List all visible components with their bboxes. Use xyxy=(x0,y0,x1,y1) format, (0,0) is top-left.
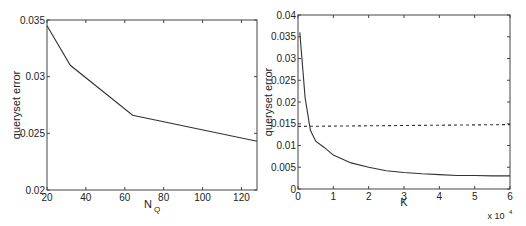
x-tick-label: 60 xyxy=(119,192,131,203)
figure: 204060801001200.020.0250.030.035queryset… xyxy=(0,0,526,226)
x-axis-label-subscript: Q xyxy=(154,205,160,214)
y-tick-label: 0 xyxy=(290,184,296,195)
x-tick-label: 120 xyxy=(233,192,250,203)
y-tick-label: 0.02 xyxy=(277,97,297,108)
y-axis-label: queryset error xyxy=(10,70,22,139)
y-tick-label: 0.01 xyxy=(277,140,297,151)
x-multiplier-exponent: 4 xyxy=(509,209,513,215)
y-tick-label: 0.025 xyxy=(271,75,296,86)
x-tick-label: 4 xyxy=(437,191,443,202)
x-tick-label: 1 xyxy=(331,191,337,202)
y-tick-label: 0.005 xyxy=(271,162,296,173)
x-tick-label: 6 xyxy=(507,191,513,202)
y-tick-label: 0.025 xyxy=(20,128,45,139)
left-chart: 204060801001200.020.0250.030.035queryset… xyxy=(10,15,257,215)
y-tick-label: 0.015 xyxy=(271,118,296,129)
y-tick-label: 0.04 xyxy=(277,10,297,21)
y-tick-label: 0.03 xyxy=(277,53,297,64)
x-tick-label: 5 xyxy=(472,191,478,202)
x-tick-label: 100 xyxy=(194,192,211,203)
dashed-reference-line xyxy=(298,125,510,127)
y-tick-label: 0.035 xyxy=(20,15,45,26)
y-tick-label: 0.035 xyxy=(271,31,296,42)
x-tick-label: 0 xyxy=(295,191,301,202)
x-tick-label: 2 xyxy=(366,191,372,202)
right-chart: 012345600.0050.010.0150.020.0250.030.035… xyxy=(262,10,513,222)
y-axis-label: queryset error xyxy=(262,67,274,136)
x-axis-label: N xyxy=(144,198,152,210)
axes-box xyxy=(298,15,510,189)
x-tick-label: 80 xyxy=(158,192,170,203)
x-multiplier-label: x 10 xyxy=(487,211,504,221)
data-line xyxy=(300,32,510,176)
y-tick-label: 0.03 xyxy=(26,71,46,82)
y-tick-label: 0.02 xyxy=(26,185,46,196)
data-line xyxy=(47,26,257,142)
x-tick-label: 40 xyxy=(80,192,92,203)
x-axis-label: K xyxy=(400,196,408,208)
axes-box xyxy=(47,20,257,190)
